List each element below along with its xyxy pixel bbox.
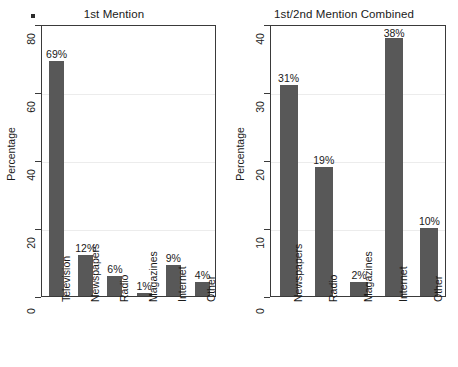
gridline <box>42 94 215 95</box>
bar-value-label-other: 10% <box>406 215 452 227</box>
bar-value-label-newspapers: 31% <box>266 72 312 84</box>
x-tick-label-television: Television <box>60 256 72 302</box>
y-tick-label-60: 60 <box>25 92 37 122</box>
y-tick-label-20: 20 <box>254 160 266 190</box>
x-tick-label-newspapers: Newspapers <box>89 244 101 302</box>
x-tick-label-internet: Internet <box>397 266 409 302</box>
bar-internet <box>385 38 403 296</box>
bar-value-label-radio: 19% <box>301 154 347 166</box>
y-tick-label-0: 0 <box>25 296 37 326</box>
bar-value-label-newspapers: 12% <box>63 242 109 254</box>
chart-panel-1st-mention: 1st Mention Percentage 69%12%6%1%9%4% 02… <box>0 0 229 367</box>
x-tick-label-other: Other <box>205 276 217 302</box>
x-tick-label-newspapers: Newspapers <box>292 244 304 302</box>
bar-value-label-internet: 38% <box>371 27 417 39</box>
y-tick-label-80: 80 <box>25 24 37 54</box>
chart-panel-combined: 1st/2nd Mention Combined Percentage 31%1… <box>229 0 458 367</box>
y-axis-title-left: Percentage <box>5 119 17 189</box>
gridline <box>42 162 215 163</box>
y-tick-label-40: 40 <box>25 160 37 190</box>
x-tick-label-other: Other <box>432 276 444 302</box>
x-tick-label-radio: Radio <box>327 275 339 302</box>
chart-title-combined: 1st/2nd Mention Combined <box>241 8 447 20</box>
x-tick-label-magazines: Magazines <box>147 251 159 302</box>
x-tick-label-internet: Internet <box>176 266 188 302</box>
figure-canvas: 1st Mention Percentage 69%12%6%1%9%4% 02… <box>0 0 458 367</box>
x-tick-label-magazines: Magazines <box>362 251 374 302</box>
y-tick-label-0: 0 <box>254 296 266 326</box>
x-tick-label-radio: Radio <box>118 275 130 302</box>
chart-title-1st-mention: 1st Mention <box>12 8 216 20</box>
bar-value-label-television: 69% <box>34 48 80 60</box>
y-tick-label-20: 20 <box>25 228 37 258</box>
gridline <box>42 230 215 231</box>
y-tick-label-40: 40 <box>254 24 266 54</box>
y-axis-title-right: Percentage <box>234 119 246 189</box>
y-tick-label-30: 30 <box>254 92 266 122</box>
bar-value-label-magazines: 2% <box>336 269 382 281</box>
y-tick-label-10: 10 <box>254 228 266 258</box>
